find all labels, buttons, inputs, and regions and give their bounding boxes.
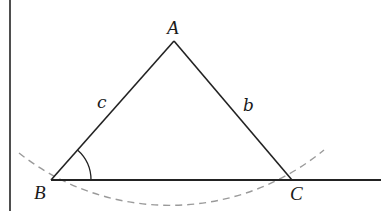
- triangle-diagram: A B C c b: [0, 0, 381, 211]
- angle-arc-b: [78, 150, 92, 180]
- vertex-label-a: A: [165, 17, 179, 38]
- vertex-label-c: C: [290, 183, 303, 204]
- side-label-b: b: [243, 95, 254, 115]
- side-b: [174, 41, 292, 180]
- side-c: [51, 41, 174, 180]
- vertex-label-b: B: [34, 182, 46, 203]
- dashed-arc: [19, 150, 324, 205]
- side-label-c: c: [97, 92, 107, 112]
